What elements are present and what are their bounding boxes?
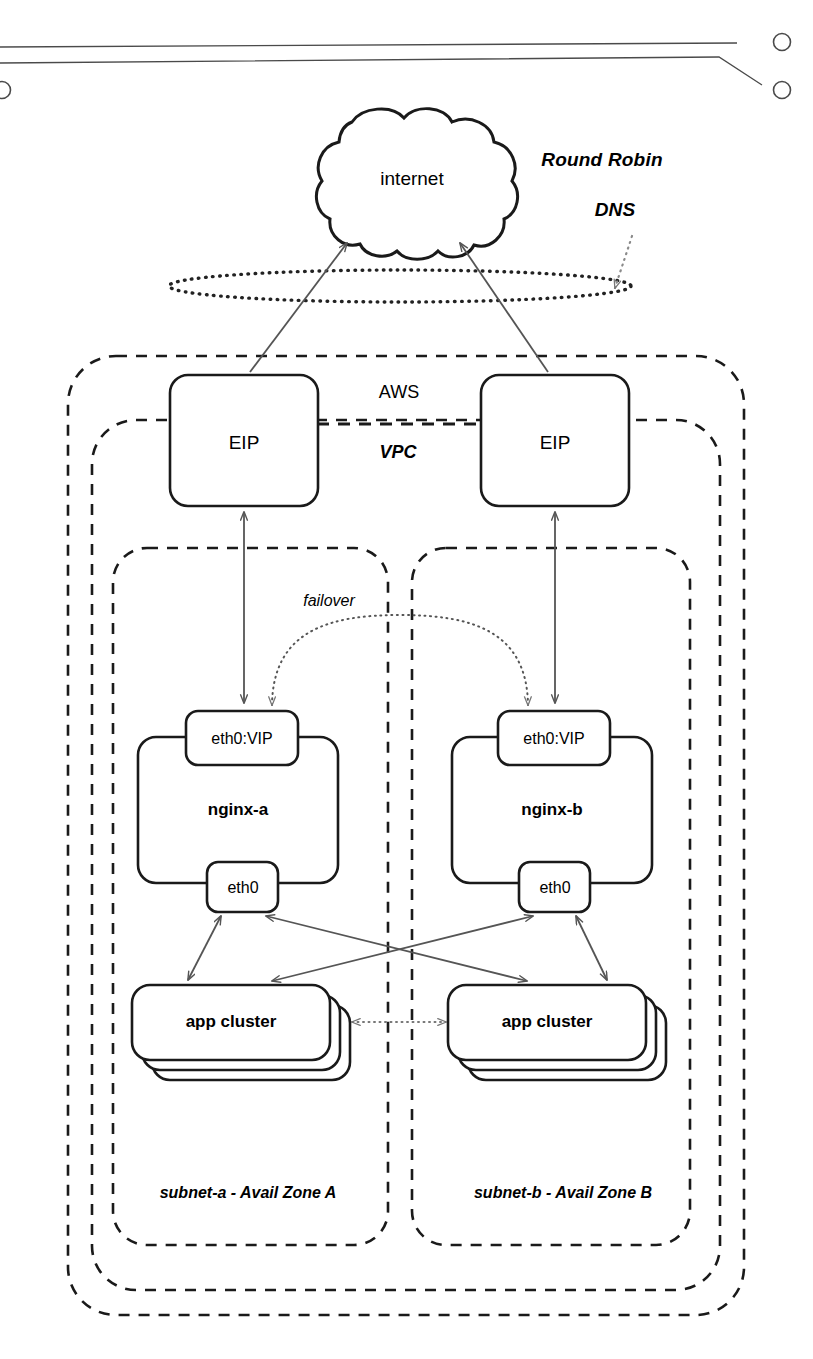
round-robin-dns-label-line2: DNS (595, 199, 636, 221)
eip-a-label: EIP (229, 432, 260, 454)
eip-b-box (481, 375, 629, 506)
eth0-b-to-app-a-arrow (272, 916, 533, 981)
nginx-a-eth0-label: eth0 (227, 879, 258, 897)
app-cluster-b-box-front (448, 985, 646, 1060)
app-cluster-b-box-back (468, 1005, 666, 1080)
nginx-b-label: nginx-b (521, 800, 582, 820)
aws-boundary (68, 356, 744, 1315)
vpc-boundary-label: VPC (379, 442, 416, 463)
subnet-a-label: subnet-a - Avail Zone A (160, 1184, 337, 1202)
binding-hole-icon (774, 34, 791, 51)
round-robin-dns-label-line1: Round Robin (541, 149, 662, 171)
app-cluster-a-box-back (152, 1005, 350, 1080)
subnet-a-boundary (113, 548, 388, 1245)
round-robin-dns-pointer-arrow (615, 236, 632, 288)
eip-a-box (170, 375, 318, 506)
binding-hole-icon (0, 82, 11, 99)
eip-b-label: EIP (540, 432, 571, 454)
app-cluster-b-label: app cluster (502, 1012, 593, 1032)
binding-hole-icon (774, 82, 791, 99)
nginx-b-box (452, 737, 652, 883)
app-cluster-a-label: app cluster (186, 1012, 277, 1032)
failover-label: failover (303, 592, 355, 610)
app-cluster-a-box-front (132, 985, 330, 1060)
app-cluster-a-box-mid (142, 995, 340, 1070)
architecture-diagram: internet Round Robin DNS AWS VPC EIP EIP… (0, 0, 813, 1359)
internet-cloud-shape (316, 109, 517, 260)
eth0-a-to-app-a-arrow (188, 916, 221, 980)
nginx-b-vip-interface-box (498, 711, 610, 765)
failover-arc-arrow (272, 615, 528, 705)
nginx-a-vip-label: eth0:VIP (211, 730, 272, 748)
nginx-b-eth0-interface-box (519, 862, 590, 912)
eth0-a-to-app-b-arrow (266, 916, 527, 981)
internet-cloud-label: internet (380, 168, 443, 190)
app-cluster-b-box-mid (458, 995, 656, 1070)
aws-boundary-label: AWS (379, 382, 419, 403)
round-robin-dns-ellipse (169, 270, 631, 302)
nginx-a-box (138, 737, 338, 883)
nginx-a-label: nginx-a (208, 800, 268, 820)
subnet-b-label: subnet-b - Avail Zone B (474, 1184, 652, 1202)
eip-a-to-internet-arrow (250, 243, 347, 372)
eip-b-to-internet-arrow (460, 243, 548, 372)
vpc-boundary (92, 420, 720, 1290)
nginx-a-vip-interface-box (186, 711, 298, 765)
subnet-b-boundary (412, 548, 690, 1245)
diagram-vector-layer (0, 0, 813, 1359)
scan-page-edge-artifact (0, 34, 791, 99)
nginx-b-vip-label: eth0:VIP (523, 730, 584, 748)
nginx-b-eth0-label: eth0 (539, 879, 570, 897)
nginx-a-eth0-interface-box (207, 862, 278, 912)
eth0-b-to-app-b-arrow (576, 916, 607, 980)
